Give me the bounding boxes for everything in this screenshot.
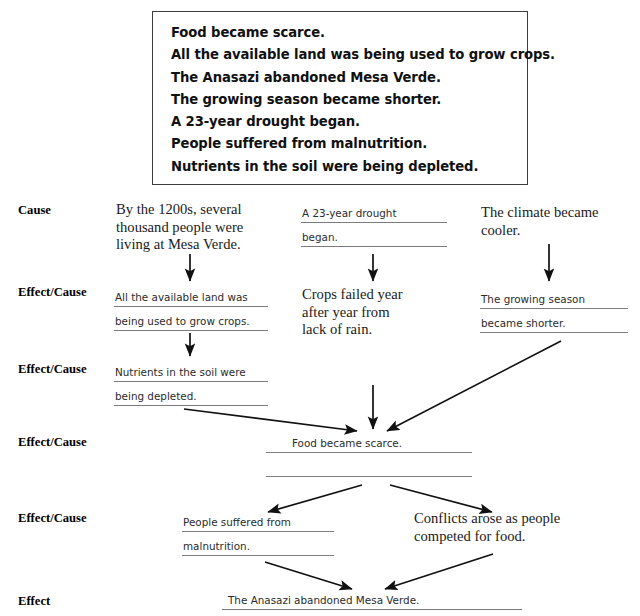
cause-right-text-block: The climate became cooler. — [481, 204, 640, 239]
answer-text: being used to grow crops. — [115, 315, 250, 327]
word-bank-box: Food became scarce. All the available la… — [152, 11, 528, 185]
cause-left-line-3: living at Mesa Verde. — [116, 236, 286, 254]
cause-mid-answer-block[interactable]: A 23-year drought began. — [301, 199, 447, 247]
effect-center-answer-block[interactable]: The Anasazi abandoned Mesa Verde. — [222, 586, 522, 616]
word-bank-item: Nutrients in the soil were being deplete… — [171, 156, 527, 178]
arrow-diagonal-left-to-food-scarce — [184, 409, 357, 431]
answer-text: Nutrients in the soil were — [115, 366, 246, 378]
arrow-malnutrition-to-effect — [265, 562, 352, 589]
word-bank-item: The growing season became shorter. — [171, 89, 527, 111]
ec2-left-answer-block[interactable]: Nutrients in the soil were being deplete… — [114, 358, 268, 406]
cause-right-line-2: cooler. — [481, 222, 640, 240]
ec1-mid-line-1: Crops failed year — [302, 286, 442, 304]
ec4-right-text-block: Conflicts arose as people competed for f… — [414, 510, 594, 545]
answer-text: began. — [302, 231, 338, 243]
row-label-effect-cause-1: Effect/Cause — [18, 285, 87, 300]
answer-line[interactable]: People suffered from — [182, 508, 334, 532]
answer-line[interactable]: being used to grow crops. — [114, 307, 268, 331]
answer-line[interactable]: Food became scarce. — [266, 429, 472, 453]
answer-line[interactable]: became shorter. — [480, 309, 628, 333]
row-label-cause: Cause — [18, 203, 51, 218]
answer-text: being depleted. — [115, 390, 197, 402]
answer-line[interactable]: All the available land was — [114, 283, 268, 307]
cause-right-line-1: The climate became — [481, 204, 640, 222]
answer-text: The growing season — [481, 293, 585, 305]
answer-line[interactable]: The growing season — [480, 285, 628, 309]
cause-left-line-2: thousand people were — [116, 219, 286, 237]
graphic-organizer-page: Food became scarce. All the available la… — [0, 0, 640, 616]
word-bank-item: A 23-year drought began. — [171, 111, 527, 133]
row-label-effect-cause-4: Effect/Cause — [18, 511, 87, 526]
answer-text: became shorter. — [481, 317, 566, 329]
row-label-effect-cause-3: Effect/Cause — [18, 435, 87, 450]
answer-line[interactable]: A 23-year drought — [301, 199, 447, 223]
ec1-mid-line-2: after year from — [302, 304, 442, 322]
word-bank-item: Food became scarce. — [171, 22, 527, 44]
arrow-conflicts-to-effect — [385, 554, 493, 589]
cause-left-line-1: By the 1200s, several — [116, 201, 286, 219]
ec3-center-answer-block[interactable]: Food became scarce. — [266, 429, 472, 477]
answer-line[interactable] — [266, 453, 472, 477]
answer-line[interactable]: The Anasazi abandoned Mesa Verde. — [222, 586, 522, 610]
word-bank-item: All the available land was being used to… — [171, 44, 527, 66]
ec1-left-answer-block[interactable]: All the available land was being used to… — [114, 283, 268, 331]
ec1-mid-text-block: Crops failed year after year from lack o… — [302, 286, 442, 339]
ec4-right-line-1: Conflicts arose as people — [414, 510, 594, 528]
word-bank-item: People suffered from malnutrition. — [171, 133, 527, 155]
answer-text: People suffered from — [183, 516, 291, 528]
cause-left-text-block: By the 1200s, several thousand people we… — [116, 201, 286, 254]
ec1-mid-line-3: lack of rain. — [302, 321, 442, 339]
answer-text: Food became scarce. — [292, 437, 402, 449]
row-label-effect: Effect — [18, 594, 50, 609]
answer-text: malnutrition. — [183, 540, 250, 552]
arrow-branch-to-conflicts — [390, 485, 492, 512]
answer-line[interactable] — [222, 610, 522, 616]
row-label-effect-cause-2: Effect/Cause — [18, 362, 87, 377]
answer-line[interactable]: began. — [301, 223, 447, 247]
answer-line[interactable]: Nutrients in the soil were — [114, 358, 268, 382]
answer-line[interactable]: malnutrition. — [182, 532, 334, 556]
ec4-right-line-2: competed for food. — [414, 528, 594, 546]
answer-text: A 23-year drought — [302, 207, 397, 219]
word-bank-item: The Anasazi abandoned Mesa Verde. — [171, 67, 527, 89]
answer-text: The Anasazi abandoned Mesa Verde. — [228, 594, 419, 606]
answer-line[interactable]: being depleted. — [114, 382, 268, 406]
ec4-left-answer-block[interactable]: People suffered from malnutrition. — [182, 508, 334, 556]
arrow-diagonal-right-to-food-scarce — [387, 341, 561, 431]
ec1-right-answer-block[interactable]: The growing season became shorter. — [480, 285, 628, 333]
answer-text: All the available land was — [115, 291, 248, 303]
